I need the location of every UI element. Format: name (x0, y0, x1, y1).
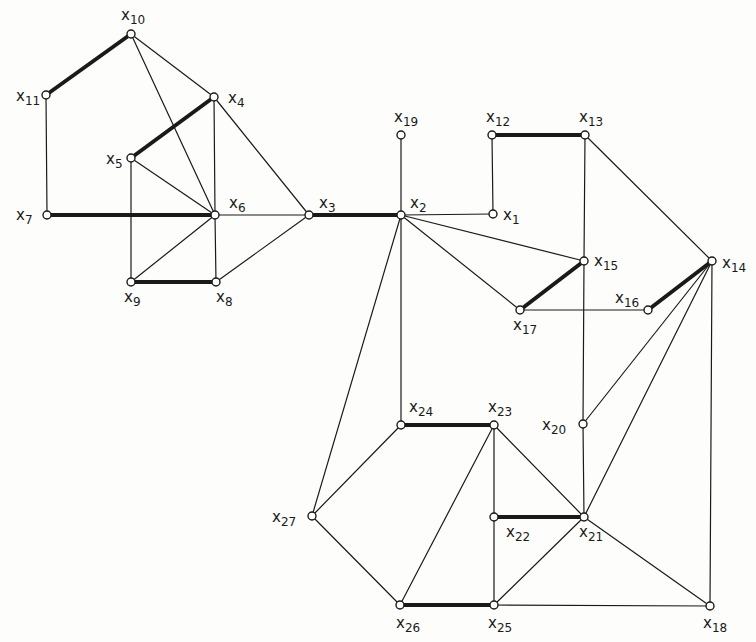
node-label-x21: x21 (579, 523, 603, 544)
edge-x11-x7 (46, 95, 47, 215)
edge-x27-x26 (312, 516, 400, 605)
edge-x16-x14-bold (648, 261, 712, 310)
node-label-x14: x14 (722, 254, 746, 275)
node-x2 (397, 211, 405, 219)
node-x10 (127, 30, 135, 38)
node-x26 (396, 601, 404, 609)
edge-x23-x21 (494, 425, 584, 517)
label-subscript: 19 (403, 115, 418, 129)
node-label-x9: x9 (124, 288, 141, 309)
label-base: x (579, 523, 588, 541)
label-base: x (228, 89, 237, 107)
node-x5 (127, 154, 135, 162)
node-label-x17: x17 (513, 316, 537, 337)
label-subscript: 9 (133, 295, 141, 309)
node-label-x11: x11 (16, 87, 40, 108)
label-subscript: 17 (522, 323, 537, 337)
edge-x8-x3 (216, 215, 309, 282)
label-base: x (121, 6, 130, 24)
node-label-x16: x16 (615, 289, 639, 310)
node-x14 (708, 257, 716, 265)
label-base: x (16, 206, 25, 224)
node-x13 (581, 131, 589, 139)
node-x3 (305, 211, 313, 219)
node-x24 (397, 421, 405, 429)
label-base: x (106, 150, 115, 168)
node-x1 (489, 210, 497, 218)
edge-x4-x6 (214, 97, 215, 215)
node-label-x19: x19 (394, 108, 418, 129)
label-subscript: 18 (712, 621, 727, 635)
edge-x14-x20 (583, 261, 712, 424)
node-x23 (490, 421, 498, 429)
node-x21 (580, 513, 588, 521)
node-x22 (490, 513, 498, 521)
node-label-x26: x26 (396, 614, 420, 635)
node-label-x25: x25 (488, 614, 512, 635)
edge-x23-x26 (400, 425, 494, 605)
node-x11 (42, 91, 50, 99)
node-label-x1: x1 (503, 206, 520, 227)
label-subscript: 1 (512, 213, 520, 227)
label-base: x (615, 289, 624, 307)
node-x18 (706, 602, 714, 610)
label-subscript: 14 (731, 261, 746, 275)
edges-layer (46, 34, 712, 606)
node-label-x15: x15 (594, 252, 618, 273)
edge-x13-x14 (585, 135, 712, 261)
node-label-x8: x8 (216, 288, 233, 309)
label-subscript: 2 (419, 201, 427, 215)
edge-x20-x21 (583, 424, 584, 517)
label-base: x (216, 288, 225, 306)
node-label-x24: x24 (409, 398, 433, 419)
label-base: x (229, 194, 238, 212)
node-x16 (644, 306, 652, 314)
node-label-x3: x3 (319, 194, 336, 215)
edge-x14-x21 (584, 261, 712, 517)
edge-x10-x6 (131, 34, 215, 215)
label-base: x (579, 108, 588, 126)
node-x27 (308, 512, 316, 520)
label-subscript: 16 (624, 296, 639, 310)
node-x4 (210, 93, 218, 101)
node-x8 (212, 278, 220, 286)
label-subscript: 21 (588, 530, 603, 544)
node-label-x20: x20 (542, 416, 566, 437)
label-base: x (722, 254, 731, 272)
node-x15 (580, 257, 588, 265)
node-x25 (490, 601, 498, 609)
edge-x25-x18 (494, 605, 710, 606)
edge-x6-x9 (131, 215, 215, 282)
edge-x15-x20 (583, 261, 584, 424)
node-label-x7: x7 (16, 206, 33, 227)
edge-x10-x11-bold (46, 34, 131, 95)
edge-x2-x15 (401, 215, 584, 261)
label-base: x (394, 108, 403, 126)
label-base: x (488, 614, 497, 632)
node-label-x23: x23 (488, 398, 512, 419)
node-label-x5: x5 (106, 150, 123, 171)
node-x20 (579, 420, 587, 428)
label-base: x (409, 398, 418, 416)
label-base: x (488, 398, 497, 416)
label-base: x (506, 523, 515, 541)
label-base: x (503, 206, 512, 224)
label-subscript: 5 (115, 157, 123, 171)
edge-x15-x17-bold (520, 261, 584, 310)
node-label-x27: x27 (272, 508, 296, 529)
node-x9 (127, 278, 135, 286)
label-subscript: 3 (328, 201, 336, 215)
label-base: x (542, 416, 551, 434)
label-base: x (703, 614, 712, 632)
label-base: x (16, 87, 25, 105)
label-subscript: 10 (130, 13, 145, 27)
label-base: x (272, 508, 281, 526)
graph-canvas: x1x2x3x4x5x6x7x8x9x10x11x12x13x14x15x16x… (0, 0, 756, 642)
label-subscript: 12 (495, 115, 510, 129)
edge-x14-x18 (710, 261, 712, 606)
node-label-x4: x4 (228, 89, 245, 110)
node-label-x13: x13 (579, 108, 603, 129)
edge-x2-x1 (401, 214, 493, 215)
node-label-x10: x10 (121, 6, 145, 27)
edge-x2-x17 (401, 215, 520, 310)
